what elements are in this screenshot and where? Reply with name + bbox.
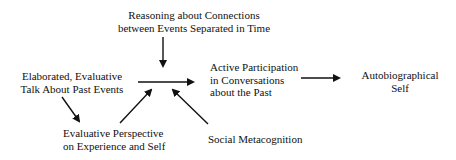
node-line: Talk About Past Events — [8, 83, 136, 96]
node-line: in Conversations — [210, 74, 310, 87]
arrow-elaborated-to-evaluative — [62, 97, 79, 121]
node-autobiographical-self: Autobiographical Self — [350, 69, 450, 94]
node-line: Self — [350, 82, 450, 95]
node-line: Active Participation — [210, 61, 310, 74]
node-line: on Experience and Self — [63, 140, 183, 153]
node-active-participation: Active Participation in Conversations ab… — [210, 61, 310, 99]
node-line: between Events Separated in Time — [108, 22, 280, 35]
node-evaluative-perspective: Evaluative Perspective on Experience and… — [63, 127, 183, 152]
node-social-metacognition: Social Metacognition — [208, 133, 318, 146]
node-line: Elaborated, Evaluative — [8, 70, 136, 83]
node-line: Reasoning about Connections — [108, 9, 280, 22]
node-line: about the Past — [210, 86, 310, 99]
node-line: Evaluative Perspective — [63, 127, 183, 140]
node-line: Autobiographical — [350, 69, 450, 82]
node-line: Social Metacognition — [208, 133, 318, 146]
arrow-social-to-center — [173, 90, 208, 124]
node-elaborated-talk: Elaborated, Evaluative Talk About Past E… — [8, 70, 136, 95]
node-reasoning-connections: Reasoning about Connections between Even… — [108, 9, 280, 34]
